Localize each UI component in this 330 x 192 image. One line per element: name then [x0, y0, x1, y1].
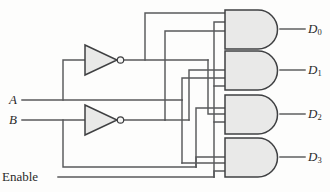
input-label-b: B	[9, 113, 17, 126]
and-d1-body	[225, 51, 278, 90]
output-d3-subscript: 3	[318, 155, 322, 165]
gate-inverter-a	[85, 45, 124, 75]
wire-enable-to-d1	[214, 86, 225, 122]
wire-bnot-to-d0	[165, 31, 225, 120]
input-label-enable: Enable	[2, 170, 38, 183]
wire-enable-to-d2	[214, 122, 225, 177]
output-d0-base: D	[308, 21, 317, 36]
wire-b-to-d3	[196, 157, 225, 167]
gate-and-d0	[225, 10, 278, 49]
inverter-b-bubble-icon	[117, 117, 123, 123]
wire-enable-to-d3	[214, 171, 225, 177]
output-label-d2: D2	[308, 107, 322, 122]
output-d2-subscript: 2	[318, 112, 322, 122]
output-d1-base: D	[308, 62, 317, 77]
and-d3-body	[225, 138, 278, 177]
wire-a-to-inv	[63, 60, 85, 100]
wire-anot-to-d0	[145, 13, 225, 60]
output-label-d0: D0	[308, 22, 322, 37]
inverter-b-triangle	[85, 105, 117, 135]
circuit-schematic	[0, 0, 330, 192]
output-d3-base: D	[308, 149, 317, 164]
output-label-d1: D1	[308, 63, 322, 78]
output-d2-base: D	[308, 106, 317, 121]
inverter-a-triangle	[85, 45, 117, 75]
wire-b-lower-rail	[63, 120, 196, 167]
and-d0-body	[225, 10, 278, 49]
output-d1-subscript: 1	[318, 68, 322, 78]
inverter-a-bubble-icon	[117, 57, 123, 63]
decoder-circuit-diagram: A B Enable D0 D1 D2 D3	[0, 0, 330, 192]
input-label-a: A	[9, 93, 17, 106]
gate-and-d1	[225, 51, 278, 90]
output-label-d3: D3	[308, 150, 322, 165]
gate-and-d3	[225, 138, 278, 177]
wire-anot-to-d2	[208, 60, 225, 114]
gate-and-d2	[225, 95, 278, 134]
wire-b-to-d2	[196, 108, 225, 167]
gate-inverter-b	[85, 105, 124, 135]
output-d0-subscript: 0	[318, 27, 322, 37]
and-d2-body	[225, 95, 278, 134]
